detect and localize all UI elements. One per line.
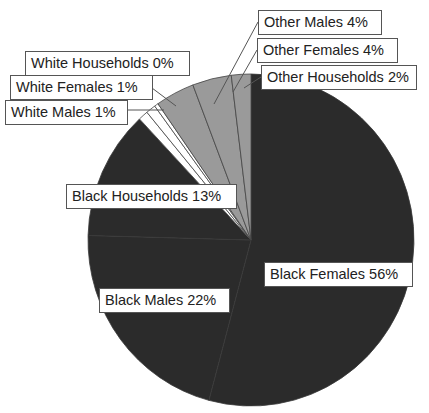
pie-slices — [88, 74, 414, 406]
label-other-households: Other Households 2% — [261, 65, 417, 90]
label-white-males: White Males 1% — [5, 100, 128, 125]
label-other-females: Other Females 4% — [257, 38, 398, 63]
label-white-females: White Females 1% — [10, 75, 153, 100]
label-black-females: Black Females 56% — [264, 262, 413, 287]
label-black-males: Black Males 22% — [99, 288, 230, 313]
label-other-males: Other Males 4% — [258, 10, 382, 35]
label-black-households: Black Households 13% — [66, 184, 237, 209]
label-white-households: White Households 0% — [25, 51, 190, 76]
